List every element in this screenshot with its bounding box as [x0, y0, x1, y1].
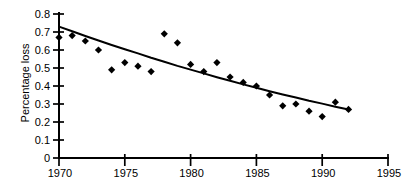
data-point-diamond: [305, 108, 312, 115]
data-point-diamond: [55, 34, 62, 41]
x-tick-label: 1995: [377, 167, 401, 179]
data-point-diamond: [121, 59, 128, 66]
y-tick-label: 0.1: [35, 134, 50, 146]
x-tick-label: 1975: [114, 167, 138, 179]
y-tick-label: 0.6: [35, 44, 50, 56]
y-tick-label: 0.2: [35, 116, 50, 128]
data-point-diamond: [213, 59, 220, 66]
y-tick-label: 0.5: [35, 62, 50, 74]
data-point-diamond: [174, 39, 181, 46]
data-point-diamond: [332, 99, 339, 106]
data-point-diamond: [292, 100, 299, 107]
y-tick-label: 0.7: [35, 26, 50, 38]
data-point-diamond: [134, 63, 141, 70]
data-point-diamond: [82, 37, 89, 44]
x-tick-label: 1985: [245, 167, 269, 179]
y-axis-title: Percentage loss: [18, 23, 32, 143]
y-tick-label: 0: [44, 152, 50, 164]
y-tick-label: 0.3: [35, 98, 50, 110]
scatter-plot-svg: 00.10.20.30.40.50.60.70.8197019751980198…: [0, 0, 417, 193]
chart-figure: 00.10.20.30.40.50.60.70.8197019751980198…: [0, 0, 417, 193]
data-point-diamond: [279, 102, 286, 109]
y-tick-label: 0.8: [35, 8, 50, 20]
data-point-diamond: [161, 30, 168, 37]
x-tick-label: 1970: [48, 167, 72, 179]
data-point-diamond: [187, 61, 194, 68]
x-tick-label: 1980: [179, 167, 203, 179]
y-tick-label: 0.4: [35, 80, 50, 92]
data-point-diamond: [108, 66, 115, 73]
data-point-diamond: [148, 68, 155, 75]
x-tick-label: 1990: [311, 167, 335, 179]
data-point-diamond: [95, 46, 102, 53]
data-point-diamond: [319, 113, 326, 120]
